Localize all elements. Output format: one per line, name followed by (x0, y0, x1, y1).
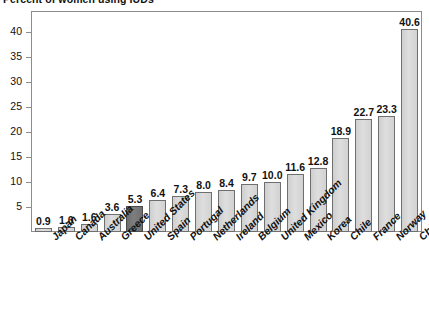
bar-value-label: 6.4 (151, 187, 166, 199)
x-axis-category-label: France (370, 234, 378, 242)
x-axis-category-label: Spain (164, 234, 172, 242)
bar-slot: 1.6 (81, 12, 98, 232)
bar-value-label: 12.8 (308, 155, 328, 167)
bar-slot: 6.4 (149, 12, 166, 232)
bar-slot: 3.6 (104, 12, 121, 232)
bar-value-label: 40.6 (399, 16, 419, 28)
bar-slot: 40.6 (401, 12, 418, 232)
x-axis-category-label: China (416, 234, 424, 242)
x-axis-category-label: Portugal (187, 234, 195, 242)
y-axis-tick: 40 (0, 32, 31, 33)
bar-slot: 18.9 (332, 12, 349, 232)
bar-slot: 8.4 (218, 12, 235, 232)
y-axis-tick-label: 20 (10, 125, 22, 137)
x-axis-category-label: Norway (393, 234, 401, 242)
bar-slot: 5.3 (126, 12, 143, 232)
bar[interactable] (355, 119, 372, 233)
x-axis-category-label: Ireland (233, 234, 241, 242)
y-axis: 510152025303540 (0, 0, 31, 326)
x-axis-category-label: Australia (95, 234, 103, 242)
bar-chart: Percent of women using IUDs 510152025303… (0, 0, 429, 326)
x-axis-category-label: Mexico (301, 234, 309, 242)
bar-value-label: 5.3 (128, 193, 143, 205)
bar-slot: 8.0 (195, 12, 212, 232)
bar-value-label: 23.3 (376, 103, 396, 115)
bar-slot: 1.0 (58, 12, 75, 232)
x-axis-category-label: Greece (118, 234, 126, 242)
bar-slot: 22.7 (355, 12, 372, 232)
bar-slot: 23.3 (378, 12, 395, 232)
bar-slot: 11.6 (287, 12, 304, 232)
y-axis-tick: 30 (0, 82, 31, 83)
x-axis-category-label: Chile (347, 234, 355, 242)
bar[interactable] (35, 228, 52, 233)
bar-value-label: 11.6 (285, 161, 305, 173)
bar-value-label: 18.9 (331, 125, 351, 137)
bar-value-label: 0.9 (36, 215, 51, 227)
x-axis-labels: JapanCanadaAustraliaGreeceUnited StatesS… (32, 234, 421, 326)
y-axis-tick-label: 10 (10, 175, 22, 187)
y-axis-tick: 15 (0, 157, 31, 158)
y-axis-tick-label: 25 (10, 100, 22, 112)
bar-value-label: 22.7 (354, 106, 374, 118)
x-axis-category-label: United Kingdom (278, 234, 286, 242)
y-axis-tick: 25 (0, 107, 31, 108)
x-axis-category-label: Netherlands (210, 234, 218, 242)
bars-layer: 0.91.01.63.65.36.47.38.08.49.710.011.612… (32, 12, 421, 232)
bar-value-label: 10.0 (262, 169, 282, 181)
bar-value-label: 8.0 (196, 179, 211, 191)
bar-slot: 10.0 (264, 12, 281, 232)
bar-slot: 0.9 (35, 12, 52, 232)
y-axis-tick: 10 (0, 182, 31, 183)
bar[interactable] (401, 29, 418, 232)
x-axis-category-label: Japan (49, 234, 57, 242)
bar-value-label: 9.7 (242, 171, 257, 183)
y-axis-tick-label: 35 (10, 50, 22, 62)
y-axis-tick-label: 40 (10, 25, 22, 37)
y-axis-tick-label: 15 (10, 150, 22, 162)
x-axis-category-label: Belgium (255, 234, 263, 242)
x-axis-category-label: Korea (324, 234, 332, 242)
x-axis-category-label: United States (141, 234, 149, 242)
y-axis-tick: 35 (0, 57, 31, 58)
y-axis-tick-label: 5 (16, 200, 22, 212)
bar-value-label: 8.4 (219, 177, 234, 189)
y-axis-tick-label: 30 (10, 75, 22, 87)
y-axis-tick: 20 (0, 132, 31, 133)
x-axis-category-label: Canada (72, 234, 80, 242)
y-axis-tick: 5 (0, 207, 31, 208)
